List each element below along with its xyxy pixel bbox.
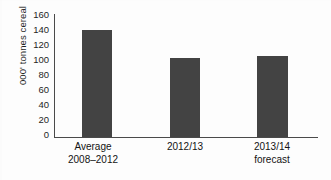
y-tick-label-0: 0 — [0, 130, 49, 139]
x-tick-label-2012-13: 2012/13 — [139, 141, 231, 154]
bar-2012-13 — [170, 58, 200, 137]
y-tick-label-140: 140 — [0, 25, 49, 34]
x-tick-label-line1: 2013/14 — [254, 141, 290, 152]
x-tick-label-average-2008-2012: Average 2008–2012 — [47, 141, 139, 166]
x-tick-label-line1: 2012/13 — [167, 141, 203, 152]
bar-chart: 000' tonnes cereal 160 140 120 100 80 60… — [0, 0, 331, 180]
y-tick-label-100: 100 — [0, 55, 49, 64]
x-tick-label-line2: 2008–2012 — [47, 154, 139, 167]
y-tick-label-60: 60 — [0, 85, 49, 94]
plot-area — [54, 14, 318, 137]
y-tick-label-80: 80 — [0, 70, 49, 79]
x-axis-line — [54, 137, 318, 138]
y-tick-label-160: 160 — [0, 10, 49, 19]
y-tick-label-120: 120 — [0, 40, 49, 49]
x-tick-label-line2: forecast — [226, 154, 318, 167]
y-tick-label-20: 20 — [0, 115, 49, 124]
x-tick-label-2013-14-forecast: 2013/14 forecast — [226, 141, 318, 166]
x-tick-label-line1: Average — [74, 141, 111, 152]
bar-2013-14-forecast — [257, 56, 288, 138]
y-tick-label-40: 40 — [0, 100, 49, 109]
bar-average-2008-2012 — [82, 30, 112, 137]
